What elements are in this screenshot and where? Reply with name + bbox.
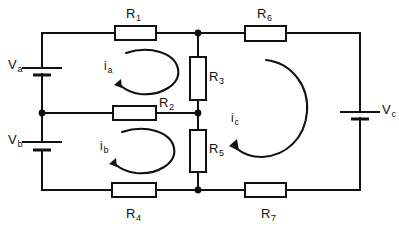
label-current-ic: ic xyxy=(231,112,239,127)
label-Va: Va xyxy=(8,58,23,74)
label-R4: R4 xyxy=(126,207,141,223)
label-R7: R7 xyxy=(261,207,276,223)
mesh-current-arrow-ib xyxy=(109,129,174,173)
node-dot-left-middle xyxy=(39,110,46,117)
label-Vc: Vc xyxy=(382,103,396,119)
mesh-current-arrow-ia xyxy=(114,50,178,94)
resistor-R2 xyxy=(113,106,156,120)
node-dot-top-center xyxy=(195,30,202,37)
circuit-diagram: R1 R2 R3 R4 R5 R6 R7 Va Vb Vc ia ib ic xyxy=(0,0,399,233)
voltage-source-Va xyxy=(22,68,62,75)
mesh-current-arrow-ic xyxy=(229,60,307,157)
label-R2: R2 xyxy=(159,96,174,112)
label-R1: R1 xyxy=(126,7,141,23)
node-dot-bottom-center xyxy=(195,187,202,194)
node-dot-center-middle xyxy=(195,110,202,117)
resistor-R1 xyxy=(115,26,156,40)
resistor-R6 xyxy=(245,26,286,41)
label-R6: R6 xyxy=(257,7,272,23)
label-Vb: Vb xyxy=(8,133,23,149)
resistor-R3 xyxy=(190,57,206,100)
resistor-R7 xyxy=(245,183,286,197)
voltage-source-Vc xyxy=(340,112,380,119)
label-R3: R3 xyxy=(209,70,224,86)
circuit-schematic-svg xyxy=(0,0,399,233)
label-R5: R5 xyxy=(209,142,224,158)
resistor-R5 xyxy=(190,130,206,172)
resistor-R4 xyxy=(112,183,156,197)
label-current-ia: ia xyxy=(104,60,113,75)
voltage-source-Vb xyxy=(22,142,62,150)
label-current-ib: ib xyxy=(100,140,109,155)
